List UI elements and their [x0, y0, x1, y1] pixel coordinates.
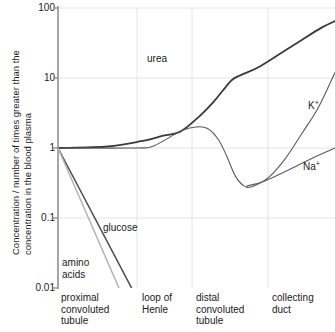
sodium-label: Na+	[303, 160, 320, 172]
plot-area: urea K+ Na+ glucose amino acids	[0, 0, 335, 332]
x-label-line-2: convoluted	[61, 304, 131, 316]
x-label-line-3: tubule	[61, 315, 131, 327]
x-label-line-2: duct	[272, 304, 335, 316]
x-label-line-1: distal	[196, 292, 266, 304]
data-curves	[58, 21, 335, 295]
x-label-line-1: collecting	[272, 292, 335, 304]
glucose-label: glucose	[103, 222, 138, 233]
x-label-line-2: convoluted	[196, 304, 266, 316]
chart-figure: Concentration / number of times greater …	[0, 0, 335, 332]
series-sodium	[246, 148, 335, 186]
series-urea	[58, 21, 335, 148]
x-label-distal-convoluted-tubule: distal convoluted tubule	[196, 292, 266, 327]
x-label-line-1: proximal	[61, 292, 131, 304]
amino-acids-label-line-1: amino	[62, 257, 90, 268]
x-label-line-3: tubule	[196, 315, 266, 327]
series-potassium	[58, 72, 335, 187]
x-label-proximal-convoluted-tubule: proximal convoluted tubule	[61, 292, 131, 327]
horizontal-gridlines	[58, 8, 335, 218]
urea-label: urea	[147, 53, 167, 64]
amino-acids-label-line-2: acids	[62, 269, 85, 280]
x-label-collecting-duct: collecting duct	[272, 292, 335, 315]
